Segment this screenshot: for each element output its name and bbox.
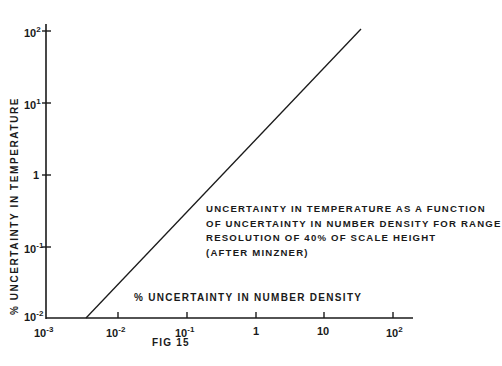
y-tick-label-10: 101 [24,98,41,111]
tick-base: 1 [253,325,259,337]
tick-base: 10 [386,327,398,339]
y-tick-label-1: 1 [33,170,39,181]
tick-exp: 2 [398,325,402,334]
y-axis-title: % UNCERTAINTY IN TEMPERATURE [9,97,20,315]
annotation-line: RESOLUTION OF 40% OF SCALE HEIGHT [206,231,502,246]
tick-base: 10 [24,27,36,39]
y-tick-label-0.01: 10-2 [24,310,43,323]
tick-exp: -2 [118,325,125,334]
chart-annotation: UNCERTAINTY IN TEMPERATURE AS A FUNCTION… [206,202,502,260]
data-series-line [86,29,361,318]
tick-exp: -1 [187,325,194,334]
y-tick-label-100: 102 [24,26,41,39]
x-tick-label-100: 102 [386,326,403,339]
y-tick-label-0.1: 10-1 [24,242,43,255]
annotation-line: UNCERTAINTY IN TEMPERATURE AS A FUNCTION [206,202,502,217]
x-tick-label-0.01: 10-2 [106,326,125,339]
tick-base: 10 [24,311,36,323]
annotation-line: OF UNCERTAINTY IN NUMBER DENSITY FOR RAN… [206,217,502,232]
tick-base: 10 [24,243,36,255]
tick-base: 10 [24,99,36,111]
tick-exp: 1 [36,97,40,106]
x-tick-label-1: 1 [253,326,259,337]
tick-base: 10 [34,327,46,339]
tick-exp: 2 [36,25,40,34]
tick-base: 10 [106,327,118,339]
tick-exp: -2 [36,309,43,318]
x-axis-title: % UNCERTAINTY IN NUMBER DENSITY [134,292,362,303]
tick-base: 10 [317,325,329,337]
x-ticks [118,312,393,318]
annotation-line: (AFTER MINZNER) [206,246,502,261]
tick-base: 1 [33,169,39,181]
tick-exp: -1 [36,241,43,250]
x-tick-label-10: 10 [317,326,329,337]
figure-caption: FIG 15 [152,337,190,348]
tick-exp: -3 [46,325,53,334]
x-tick-label-0.001: 10-3 [34,326,53,339]
